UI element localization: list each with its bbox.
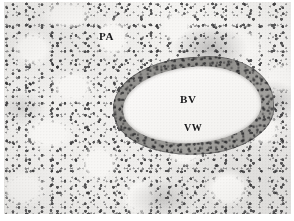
figure-root: PA BV VW [0, 0, 294, 221]
label-vessel-wall: VW [184, 123, 202, 133]
label-blood-vessel: BV [180, 94, 196, 105]
micrograph-image: PA BV VW [4, 2, 291, 214]
label-pulmonary-alveoli: PA [99, 31, 114, 42]
